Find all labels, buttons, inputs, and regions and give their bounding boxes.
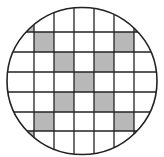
shaded-cell [134,6,159,33]
shaded-cell [114,32,134,52]
shaded-cell [34,32,54,52]
shaded-cell [114,112,134,131]
shaded-cell [94,52,114,72]
shaded-cells [5,6,159,157]
shaded-cell [134,131,159,157]
shaded-cell [54,52,74,72]
shaded-cell [34,112,54,131]
shaded-cell [54,92,74,112]
shaded-cell [74,72,94,92]
circle-grid-diagram [0,0,164,157]
shaded-cell [94,92,114,112]
shaded-cell [5,131,34,157]
